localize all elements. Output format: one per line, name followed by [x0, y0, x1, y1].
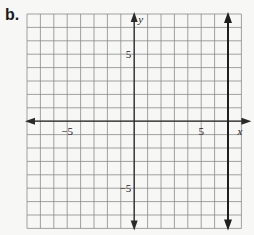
x-tick-label: −5: [61, 125, 73, 137]
y-axis-up-arrow-icon: [131, 12, 138, 22]
coordinate-plane: xy−555−5: [0, 0, 254, 235]
x-axis-label: x: [236, 125, 242, 137]
x-axis-left-arrow-icon: [25, 118, 35, 125]
y-tick-label: 5: [126, 48, 132, 60]
y-tick-label: −5: [119, 182, 131, 194]
x-axis-right-arrow-icon: [241, 118, 251, 125]
x-tick-label: 5: [198, 125, 204, 137]
y-axis-label: y: [137, 13, 143, 25]
y-axis-down-arrow-icon: [131, 220, 138, 230]
